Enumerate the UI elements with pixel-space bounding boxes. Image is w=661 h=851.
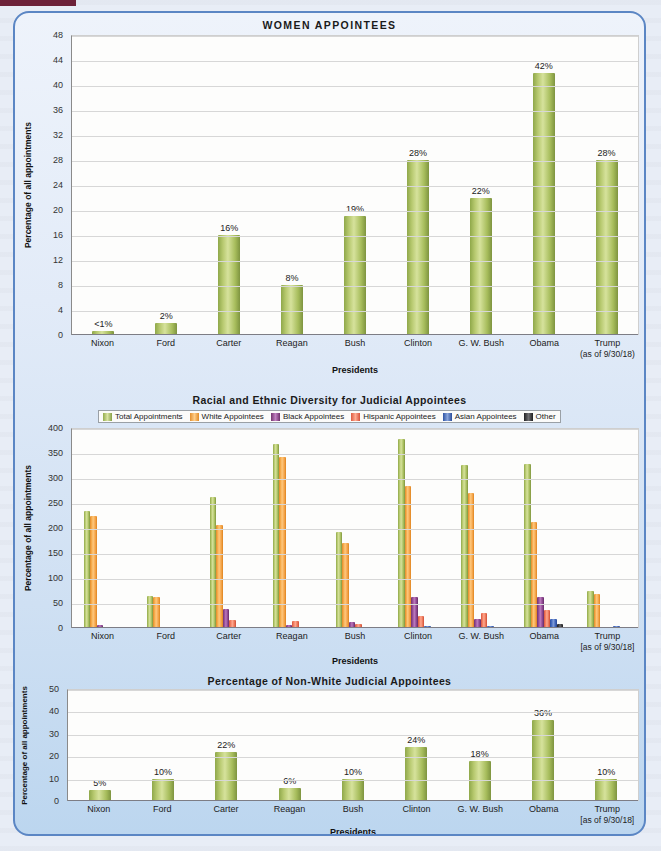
bar-women-appointees[interactable]: 22% [470,198,492,336]
y-tick-label: 50 [49,684,59,694]
bar-value-label: 16% [220,223,238,233]
y-tick-label: 30 [49,729,59,739]
bar-white-appointees[interactable] [594,594,601,628]
bar-white-appointees[interactable] [216,525,223,628]
y-tick-label: 50 [53,598,63,608]
bar-women-appointees[interactable]: 19% [344,216,366,335]
x-tick-label: Ford [131,804,195,826]
legend-item[interactable]: White Appointees [190,412,264,421]
bar-non-white-appointees[interactable]: 10% [152,779,174,801]
bar-non-white-appointees[interactable]: 36% [532,720,554,801]
y-tick-label: 32 [53,130,63,140]
y-tick-label: 20 [53,205,63,215]
bar-total-appointments[interactable] [398,439,405,628]
y-tick-label: 200 [48,523,63,533]
bar-white-appointees[interactable] [153,597,160,628]
bar-group: 10% [575,690,638,801]
chart2-plot-wrap: Percentage of all appointments 050100150… [15,428,644,668]
bar-group: 10% [321,690,384,801]
chart3-y-ticks: 01020304050 [33,689,59,801]
chart2-x-axis-title: Presidents [71,656,639,666]
legend-item[interactable]: Asian Appointees [443,412,517,421]
chart2-x-labels: NixonFordCarterReaganBushClintonG. W. Bu… [71,631,639,653]
legend-swatch-orange [190,413,199,421]
bar-black-appointees[interactable] [411,597,418,628]
bar-total-appointments[interactable] [587,591,594,628]
bar-white-appointees[interactable] [342,543,349,628]
top-rule-marker [0,0,76,6]
bar-non-white-appointees[interactable]: 22% [215,752,237,801]
chart3-axis-line [68,800,638,801]
y-tick-label: 250 [48,498,63,508]
gridline [72,286,638,287]
x-tick-label: Nixon [71,631,134,653]
y-tick-label: 10 [49,774,59,784]
x-tick-label: Reagan [258,804,322,826]
gridline [72,311,638,312]
y-tick-label: 20 [49,751,59,761]
gridline [68,690,638,691]
bar-non-white-appointees[interactable]: 24% [405,747,427,801]
chart1-plot-wrap: Percentage of all appointments 048121620… [15,35,644,367]
y-tick-label: 40 [49,706,59,716]
x-tick-label: Clinton [387,631,450,653]
x-tick-label: G. W. Bush [450,338,513,360]
gridline [68,735,638,736]
chart-women-appointees: WOMEN APPOINTEES Percentage of all appoi… [15,19,644,384]
y-tick-label: 44 [53,55,63,65]
x-tick-label: Obama [513,338,576,360]
gridline [72,579,638,580]
bar-group: 24% [385,690,448,801]
bar-value-label: 10% [344,767,362,777]
chart2-axis-line [72,627,638,628]
legend-item[interactable]: Black Appointees [271,412,344,421]
y-tick-label: 100 [48,573,63,583]
bar-white-appointees[interactable] [90,516,97,628]
bar-value-label: 22% [472,186,490,196]
bar-non-white-appointees[interactable]: 10% [342,779,364,801]
bar-white-appointees[interactable] [279,457,286,628]
chart3-y-axis-title: Percentage of all appointments [17,689,31,801]
gridline [72,479,638,480]
bar-white-appointees[interactable] [468,493,475,628]
bar-non-white-appointees[interactable]: 10% [595,779,617,801]
x-tick-label: Bush [323,338,386,360]
bar-non-white-appointees[interactable]: 18% [469,761,491,801]
x-tick-label: Carter [197,338,260,360]
y-tick-label: 0 [58,623,63,633]
y-tick-label: 16 [53,230,63,240]
x-tick-label: Obama [512,804,576,826]
legend-label: Black Appointees [283,412,344,421]
legend-swatch-purple [271,413,280,421]
legend-item[interactable]: Other [524,412,556,421]
x-tick-label: Ford [134,631,197,653]
chart-racial-ethnic-diversity: Racial and Ethnic Diversity for Judicial… [15,394,644,669]
gridline [68,780,638,781]
chart1-x-axis-title: Presidents [71,365,639,375]
legend-label: Hispanic Appointees [363,412,436,421]
x-tick-sublabel: (as of 9/30/18) [576,349,639,360]
gridline [72,36,638,37]
gridline [72,61,638,62]
gridline [72,211,638,212]
x-tick-label: Bush [321,804,385,826]
y-tick-label: 24 [53,180,63,190]
bar-women-appointees[interactable]: 16% [218,235,240,335]
x-tick-label: Ford [134,338,197,360]
bar-value-label: 28% [409,148,427,158]
gridline [72,261,638,262]
legend-item[interactable]: Hispanic Appointees [351,412,436,421]
bar-black-appointees[interactable] [537,597,544,628]
gridline [72,604,638,605]
legend-item[interactable]: Total Appointments [103,412,183,421]
y-tick-label: 48 [53,30,63,40]
bar-group: 6% [258,690,321,801]
bar-women-appointees[interactable]: 8% [281,285,303,335]
chart2-legend: Total AppointmentsWhite AppointeesBlack … [98,410,561,423]
figure-panel: WOMEN APPOINTEES Percentage of all appoi… [13,11,646,836]
chart1-y-axis-title: Percentage of all appointments [21,35,35,335]
x-tick-label: Trump(as of 9/30/18) [576,338,639,360]
x-tick-label: Carter [197,631,260,653]
legend-label: Total Appointments [115,412,183,421]
y-tick-label: 4 [58,305,63,315]
